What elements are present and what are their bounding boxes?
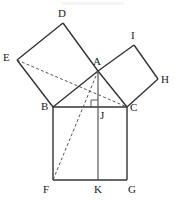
vertex-label-G: G <box>128 184 136 195</box>
segment-E-D <box>17 23 63 60</box>
segment-A-F <box>53 71 98 180</box>
vertex-label-C: C <box>130 102 137 113</box>
vertex-label-E: E <box>3 52 10 63</box>
right-angle-marker <box>91 100 98 107</box>
vertex-label-H: H <box>161 74 169 85</box>
segment-A-I <box>98 45 134 71</box>
vertex-label-J: J <box>100 110 104 121</box>
pythagorean-diagram: A B C D E F G H I J K <box>0 0 176 200</box>
right-angle-square-glyph <box>91 100 98 107</box>
vertex-label-D: D <box>58 8 66 19</box>
segment-I-H <box>134 45 158 79</box>
square-BCGF <box>53 107 127 180</box>
diagram-canvas <box>0 0 176 200</box>
vertex-label-B: B <box>41 101 48 112</box>
dashed-construction-lines <box>17 60 127 180</box>
vertex-label-F: F <box>43 184 49 195</box>
vertex-label-I: I <box>131 30 135 41</box>
vertex-label-K: K <box>94 184 102 195</box>
square-ACHI <box>98 45 158 107</box>
segment-A-C <box>98 71 127 107</box>
segment-E-C <box>17 60 127 107</box>
vertex-label-A: A <box>93 56 101 67</box>
